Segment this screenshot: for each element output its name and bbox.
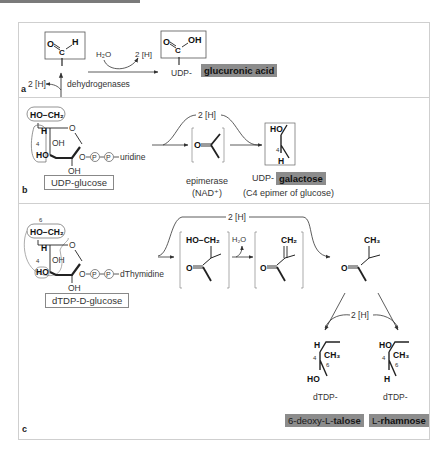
svg-text:H: H xyxy=(72,37,79,47)
water-label: H₂O xyxy=(232,235,246,244)
enzyme-dehydrogenases: dehydrogenases xyxy=(67,79,130,89)
svg-text:HO: HO xyxy=(270,124,283,134)
water-label: H₂O xyxy=(96,50,111,59)
cofactor-2h-bottom: 2 [H] xyxy=(351,310,369,320)
svg-text:P: P xyxy=(106,154,111,161)
enzyme-epimerase: epimerase xyxy=(186,176,228,186)
highlight-glucuronic-acid: glucuronic acid xyxy=(201,64,277,77)
svg-text:dThymidine: dThymidine xyxy=(120,269,164,279)
svg-text:OH: OH xyxy=(52,138,65,148)
svg-text:uridine: uridine xyxy=(120,152,146,162)
svg-text:HO−CH₂: HO−CH₂ xyxy=(30,110,64,120)
svg-text:4: 4 xyxy=(382,355,386,361)
panel-letter-a: a xyxy=(21,84,26,94)
svg-text:H: H xyxy=(384,374,390,384)
product-note: (C4 epimer of glucose) xyxy=(243,188,334,198)
svg-text:H: H xyxy=(41,126,47,136)
svg-text:H: H xyxy=(314,340,320,350)
svg-text:6: 6 xyxy=(395,362,399,368)
svg-text:HO: HO xyxy=(36,267,49,277)
svg-text:C: C xyxy=(175,46,181,55)
svg-text:CH₃: CH₃ xyxy=(324,350,340,360)
cofactor-2h-right: 2 [H] xyxy=(135,50,152,59)
highlight-6-deoxy-l-talose: 6-deoxy-L-talose xyxy=(285,414,364,427)
highlight-l-rhamnose: L-rhamnose xyxy=(369,414,429,427)
svg-text:4: 4 xyxy=(276,147,280,153)
product-1-prefix: dTDP- xyxy=(313,392,338,402)
panel-a: O C H 2 [H] dehydrogenases H₂O 2 [H] O C… xyxy=(28,31,206,97)
svg-text:4: 4 xyxy=(313,355,317,361)
svg-text:6: 6 xyxy=(39,217,43,223)
svg-text:C: C xyxy=(59,48,65,57)
svg-text:O: O xyxy=(79,269,86,279)
svg-text:HO: HO xyxy=(307,374,320,384)
panel-letter-b: b xyxy=(22,185,28,195)
svg-text:O: O xyxy=(69,123,76,133)
svg-text:HO: HO xyxy=(379,340,392,350)
svg-text:4: 4 xyxy=(36,141,40,147)
svg-text:O: O xyxy=(186,263,193,273)
svg-text:O: O xyxy=(260,263,267,273)
svg-text:OH: OH xyxy=(52,255,65,265)
enzyme-cofactor-nad: (NAD⁺) xyxy=(192,188,222,198)
product-prefix-udp: UDP- xyxy=(252,173,274,183)
svg-text:OH: OH xyxy=(188,35,202,45)
substrate-name-udp-glucose: UDP-glucose xyxy=(44,175,114,190)
svg-text:HO: HO xyxy=(36,150,49,160)
panel-letter-c: c xyxy=(22,424,27,434)
svg-text:CH₃: CH₃ xyxy=(393,350,409,360)
cofactor-2h-left: 2 [H] xyxy=(28,79,46,89)
svg-text:6: 6 xyxy=(326,362,330,368)
svg-text:O: O xyxy=(194,140,201,150)
product-2-prefix: dTDP- xyxy=(383,392,408,402)
cofactor-2h-top: 2 [H] xyxy=(228,212,246,222)
svg-text:P: P xyxy=(92,271,97,278)
svg-text:O: O xyxy=(79,152,86,162)
highlight-galactose: galactose xyxy=(276,172,326,185)
svg-text:O: O xyxy=(163,37,170,47)
substrate-name-dtdp-glucose: dTDP-D-glucose xyxy=(45,293,129,308)
svg-text:4: 4 xyxy=(36,258,40,264)
cofactor-2h: 2 [H] xyxy=(198,110,216,120)
svg-text:P: P xyxy=(106,271,111,278)
aldehyde-o: O xyxy=(47,39,54,49)
svg-text:OH: OH xyxy=(68,283,81,293)
svg-text:HO−CH₂: HO−CH₂ xyxy=(186,235,220,245)
svg-text:HO−CH₂: HO−CH₂ xyxy=(30,227,64,237)
product-prefix-udp: UDP- xyxy=(171,68,192,78)
svg-text:CH₃: CH₃ xyxy=(364,235,380,245)
svg-text:CH₂: CH₂ xyxy=(281,235,297,245)
svg-text:H: H xyxy=(41,243,47,253)
svg-text:O: O xyxy=(341,263,348,273)
svg-text:O: O xyxy=(69,240,76,250)
svg-text:P: P xyxy=(92,154,97,161)
svg-text:H: H xyxy=(278,156,284,166)
